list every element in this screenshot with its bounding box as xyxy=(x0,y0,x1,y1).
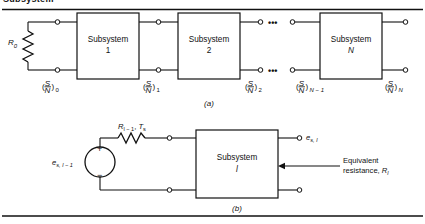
terminal-node xyxy=(297,136,302,141)
terminal-node xyxy=(297,188,302,193)
terminal-node xyxy=(156,68,161,73)
block-subsystem-l xyxy=(196,130,278,198)
block-subsystem-2-index: 2 xyxy=(207,46,212,55)
series-resistor xyxy=(118,133,167,143)
svg-text:): ) xyxy=(153,82,156,91)
ellipsis-bottom: ••• xyxy=(268,66,277,76)
panel-b: + − es, l − 1 Rl − 1, Ts xyxy=(52,122,389,213)
sn-label-2: ( S N ) 2 xyxy=(245,79,263,96)
terminal-node xyxy=(290,68,295,73)
sn-label-0: ( S N ) 0 xyxy=(42,79,60,96)
svg-text:N: N xyxy=(388,86,394,95)
svg-text:N: N xyxy=(45,86,51,95)
equivalent-resistance-arrow xyxy=(278,163,340,169)
caption-b: (b) xyxy=(232,204,242,213)
terminal-node xyxy=(403,68,408,73)
svg-text:1: 1 xyxy=(157,87,161,93)
equivalent-resistance-line2: resistance, Rl xyxy=(343,166,389,176)
panel-a: R0 Subsystem 1 Subsystem 2 xyxy=(8,13,408,108)
svg-text:N: N xyxy=(248,86,254,95)
svg-text:0: 0 xyxy=(56,87,60,93)
block-subsystem-1-index: 1 xyxy=(106,46,111,55)
block-subsystem-1-name: Subsystem xyxy=(88,35,129,44)
source-resistor-r0 xyxy=(23,22,55,70)
figure-canvas: R0 Subsystem 1 Subsystem 2 xyxy=(0,0,425,224)
svg-text:): ) xyxy=(395,82,398,91)
terminal-node xyxy=(403,20,408,25)
output-label: es, l xyxy=(306,133,318,143)
terminal-node xyxy=(258,20,263,25)
terminal-node xyxy=(55,20,60,25)
block-subsystem-n-index: N xyxy=(348,46,354,55)
source-label: es, l − 1 xyxy=(52,158,73,168)
sn-label-1: ( S N ) 1 xyxy=(143,79,161,96)
terminal-node xyxy=(167,136,172,141)
terminal-node xyxy=(55,68,60,73)
block-subsystem-l-index: l xyxy=(236,165,238,174)
svg-text:N − 1: N − 1 xyxy=(310,87,325,93)
r0-label: R0 xyxy=(8,38,18,49)
svg-text:): ) xyxy=(52,82,55,91)
figure-root: Subsystem R0 xyxy=(0,0,425,224)
block-subsystem-l-name: Subsystem xyxy=(217,153,258,162)
cut-off-heading: Subsystem xyxy=(0,0,425,7)
svg-text:2: 2 xyxy=(259,87,263,93)
equivalent-resistance-line1: Equivalent xyxy=(343,156,379,165)
terminal-node xyxy=(167,188,172,193)
svg-text:N: N xyxy=(146,86,152,95)
ellipsis-top: ••• xyxy=(268,18,277,28)
svg-text:N: N xyxy=(299,86,305,95)
terminal-node xyxy=(156,20,161,25)
sn-label-n: ( S N ) N xyxy=(385,79,404,96)
block-subsystem-2-name: Subsystem xyxy=(189,35,230,44)
sn-label-n-minus-1: ( S N ) N − 1 xyxy=(296,79,324,96)
caption-a: (a) xyxy=(204,99,214,108)
terminal-node xyxy=(290,20,295,25)
series-resistor-label: Rl − 1, Ts xyxy=(118,122,146,132)
block-subsystem-n-name: Subsystem xyxy=(331,35,372,44)
svg-text:N: N xyxy=(399,87,404,93)
svg-text:): ) xyxy=(255,82,258,91)
svg-text:): ) xyxy=(306,82,309,91)
terminal-node xyxy=(258,68,263,73)
